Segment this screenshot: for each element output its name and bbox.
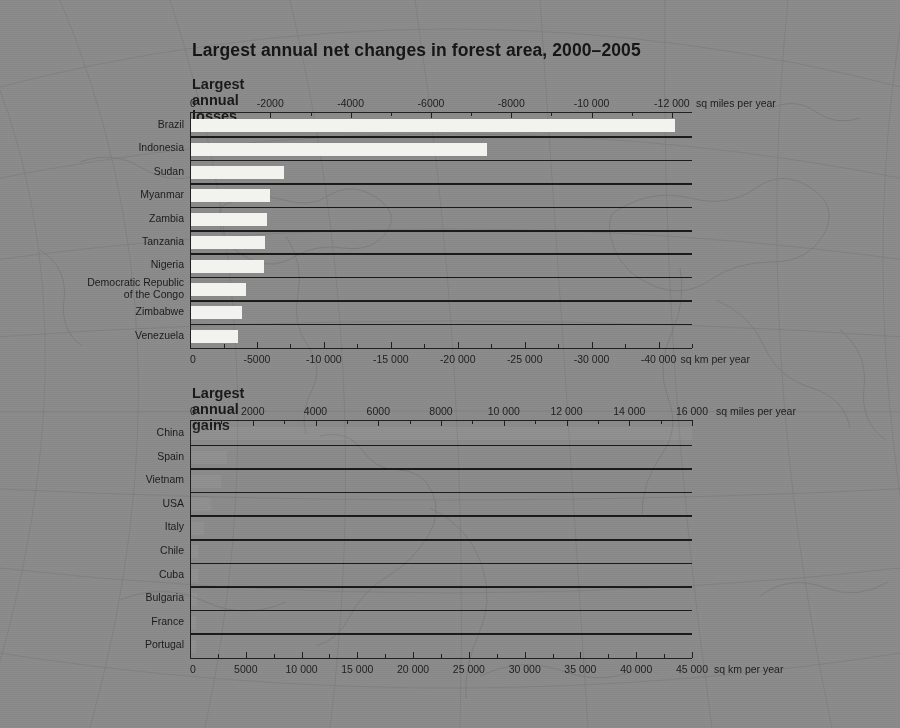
bar-usa bbox=[191, 498, 211, 511]
category-label: Nigeria bbox=[0, 259, 184, 271]
bar-brazil bbox=[191, 119, 675, 132]
top-axis-tick bbox=[391, 112, 392, 116]
category-label-line: Zimbabwe bbox=[0, 306, 184, 318]
bottom-axis-tick bbox=[625, 344, 626, 348]
bar-sudan bbox=[191, 166, 284, 179]
category-label-line: China bbox=[0, 427, 184, 439]
category-label-line: Cuba bbox=[0, 569, 184, 581]
bottom-axis-tick bbox=[357, 344, 358, 348]
top-axis-tick bbox=[431, 112, 432, 118]
top-axis-tick-label: -2000 bbox=[257, 97, 284, 109]
top-axis-tick bbox=[378, 420, 379, 426]
bottom-axis-tick bbox=[491, 344, 492, 348]
bottom-axis-tick bbox=[329, 654, 330, 658]
category-label: Venezuela bbox=[0, 330, 184, 342]
row-separator bbox=[190, 300, 692, 302]
bar-france bbox=[191, 616, 196, 629]
bottom-axis-tick-label: -40 000 bbox=[641, 353, 677, 365]
top-axis-tick-label: 14 000 bbox=[613, 405, 645, 417]
top-axis-tick bbox=[221, 420, 222, 424]
bottom-axis-unit: sq km per year bbox=[714, 663, 783, 675]
top-axis-tick bbox=[511, 112, 512, 118]
bottom-axis-tick-label: 30 000 bbox=[509, 663, 541, 675]
category-label-line: of the Congo bbox=[0, 289, 184, 301]
top-axis-tick-label: -12 000 bbox=[654, 97, 690, 109]
top-axis-tick bbox=[551, 112, 552, 116]
bottom-axis-tick-label: 25 000 bbox=[453, 663, 485, 675]
bottom-axis-tick bbox=[664, 654, 665, 658]
top-axis-tick bbox=[284, 420, 285, 424]
category-label: Spain bbox=[0, 451, 184, 463]
top-axis-tick bbox=[230, 112, 231, 116]
bottom-axis-tick bbox=[636, 652, 637, 658]
category-label-line: Venezuela bbox=[0, 330, 184, 342]
bottom-axis-tick-label: 0 bbox=[190, 663, 196, 675]
row-separator bbox=[190, 253, 692, 255]
bottom-axis-tick bbox=[692, 344, 693, 348]
bottom-axis-tick bbox=[592, 342, 593, 348]
bottom-axis-tick-label: -5000 bbox=[243, 353, 270, 365]
row-separator bbox=[190, 160, 692, 162]
bottom-axis-tick-label: 20 000 bbox=[397, 663, 429, 675]
bottom-axis-unit: sq km per year bbox=[681, 353, 750, 365]
bottom-axis-tick bbox=[692, 652, 693, 658]
top-axis-tick-label: 6000 bbox=[367, 405, 390, 417]
top-axis-tick bbox=[672, 112, 673, 118]
row-separator bbox=[190, 207, 692, 209]
bar-chile bbox=[191, 545, 198, 558]
row-separator bbox=[190, 633, 692, 635]
top-axis-tick bbox=[351, 112, 352, 118]
top-axis-unit: sq miles per year bbox=[696, 97, 776, 109]
top-axis-tick bbox=[472, 420, 473, 424]
bar-spain bbox=[191, 451, 227, 464]
bottom-axis-tick-label: 45 000 bbox=[676, 663, 708, 675]
top-axis-tick-label: 0 bbox=[190, 97, 196, 109]
top-axis-line bbox=[190, 112, 692, 113]
top-axis-tick-label: 8000 bbox=[429, 405, 452, 417]
bottom-axis-tick bbox=[290, 344, 291, 348]
category-label-line: Vietnam bbox=[0, 474, 184, 486]
category-label: Zambia bbox=[0, 213, 184, 225]
category-label: USA bbox=[0, 498, 184, 510]
top-axis-unit: sq miles per year bbox=[716, 405, 796, 417]
category-label-line: Bulgaria bbox=[0, 592, 184, 604]
top-axis-tick-label: -6000 bbox=[418, 97, 445, 109]
category-label: China bbox=[0, 427, 184, 439]
top-axis-tick bbox=[316, 420, 317, 426]
row-separator bbox=[190, 563, 692, 565]
row-separator bbox=[190, 136, 692, 138]
top-axis-tick-label: 4000 bbox=[304, 405, 327, 417]
bottom-axis-tick-label: -20 000 bbox=[440, 353, 476, 365]
bar-china bbox=[191, 427, 692, 440]
row-separator bbox=[190, 586, 692, 588]
top-axis-tick bbox=[567, 420, 568, 426]
category-label-line: Chile bbox=[0, 545, 184, 557]
row-separator bbox=[190, 468, 692, 470]
top-axis-tick bbox=[441, 420, 442, 426]
top-axis-tick bbox=[347, 420, 348, 424]
bottom-axis-tick bbox=[357, 652, 358, 658]
row-separator bbox=[190, 230, 692, 232]
bar-zambia bbox=[191, 213, 267, 226]
top-axis-tick-label: -8000 bbox=[498, 97, 525, 109]
top-axis-tick bbox=[410, 420, 411, 424]
top-axis-tick bbox=[592, 112, 593, 118]
top-axis-tick bbox=[311, 112, 312, 116]
category-label-line: Democratic Republic bbox=[0, 277, 184, 289]
bottom-axis-tick-label: 5000 bbox=[234, 663, 257, 675]
category-label-line: Tanzania bbox=[0, 236, 184, 248]
category-label: Cuba bbox=[0, 569, 184, 581]
category-label: Democratic Republicof the Congo bbox=[0, 277, 184, 300]
category-label: Zimbabwe bbox=[0, 306, 184, 318]
bottom-axis-tick bbox=[469, 652, 470, 658]
bottom-axis-tick bbox=[413, 652, 414, 658]
bottom-axis-tick bbox=[424, 344, 425, 348]
bottom-axis-tick-label: 35 000 bbox=[564, 663, 596, 675]
bottom-axis-tick bbox=[458, 342, 459, 348]
row-separator bbox=[190, 539, 692, 541]
bottom-axis-tick bbox=[385, 654, 386, 658]
category-label: Vietnam bbox=[0, 474, 184, 486]
bottom-axis-tick-label: 0 bbox=[190, 353, 196, 365]
bottom-axis-tick bbox=[246, 652, 247, 658]
bottom-axis-tick-label: 15 000 bbox=[341, 663, 373, 675]
